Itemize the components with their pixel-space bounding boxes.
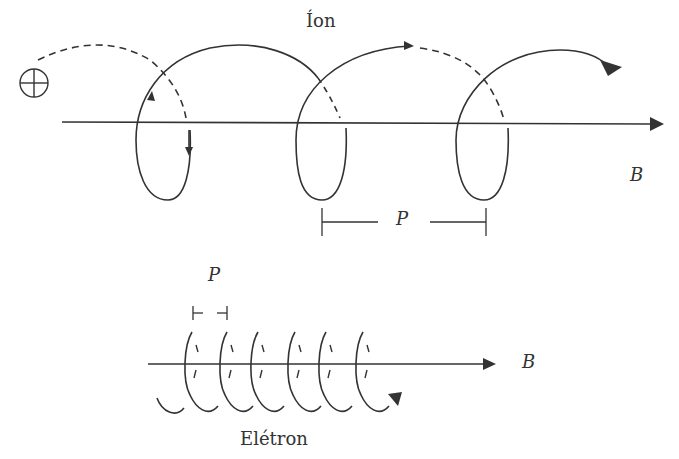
electron-field-arrowhead-icon (483, 358, 496, 370)
electron-pitch-label: P (208, 264, 220, 285)
ion-field-axis (62, 122, 650, 124)
ion-dashed-arc-1 (38, 45, 186, 118)
helical-motion-diagram: Íon B P P B Elétron (0, 0, 679, 459)
ion-helix (20, 41, 664, 236)
ion-label: Íon (306, 10, 336, 31)
electron-pitch-bracket (193, 306, 227, 320)
ion-pitch-label: P (396, 208, 408, 229)
ion-dashed-arc-2 (318, 78, 340, 118)
positive-charge-icon (20, 69, 48, 97)
electron-coil-start (157, 398, 184, 413)
electron-helix (148, 306, 496, 413)
ion-loop-3 (456, 50, 608, 200)
ion-field-label: B (630, 164, 643, 185)
ion-field-arrowhead-icon (650, 117, 664, 131)
ion-down-arrow-icon (185, 147, 193, 156)
electron-label: Elétron (240, 428, 308, 449)
diagram-graphics (0, 0, 679, 459)
electron-exit-arrow-icon (388, 392, 402, 406)
electron-field-label: B (522, 351, 535, 372)
ion-exit-arrow-icon (600, 60, 622, 76)
electron-coils (185, 332, 389, 411)
ion-right-arrow-icon (404, 41, 414, 50)
